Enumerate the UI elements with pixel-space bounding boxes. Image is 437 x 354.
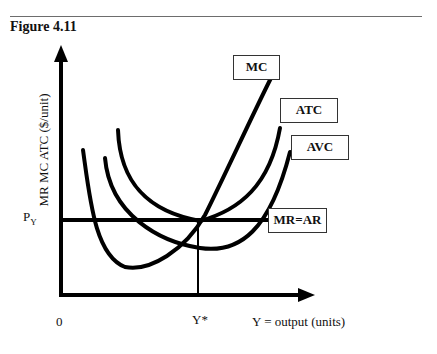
atc-label-box: ATC <box>280 98 338 123</box>
avc-label-box: AVC <box>291 135 349 160</box>
mc-label-box: MC <box>233 55 280 80</box>
y-axis-arrow-icon <box>54 45 68 62</box>
atc-curve <box>118 128 280 221</box>
price-label: PY <box>23 209 37 227</box>
x-axis-arrow-icon <box>298 288 315 302</box>
origin-label: 0 <box>56 314 63 330</box>
price-label-sub: Y <box>30 217 37 227</box>
y-axis-label: MR MC ATC ($/unit) <box>36 93 52 206</box>
mr-ar-label-box: MR=AR <box>268 208 327 233</box>
cost-curves-diagram <box>0 0 437 354</box>
x-axis-label: Y = output (units) <box>252 314 345 330</box>
y-star-label: Y* <box>192 312 208 328</box>
